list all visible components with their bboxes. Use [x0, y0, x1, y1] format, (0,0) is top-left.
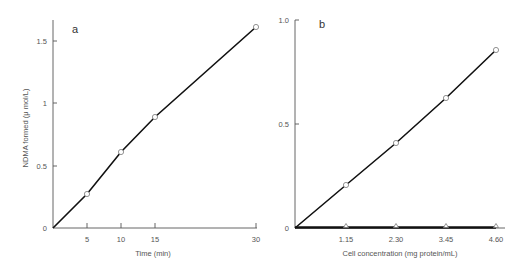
- data-point: [253, 24, 258, 29]
- panel-b-x-ticks: 1.15 2.30 3.45 4.60: [339, 235, 504, 244]
- panel-a-ytick-2: 1: [43, 99, 47, 108]
- panel-b-y-ticks: 0 0.5 1.0: [279, 16, 299, 233]
- panel-b-xtick-2: 3.45: [439, 235, 454, 244]
- data-point: [443, 95, 448, 100]
- panel-b-x-axis-label: Cell concentration (mg protein/mL): [342, 249, 458, 258]
- figure: a 0 0.5 1 1.5 5 10 15 30 Time (min) NDMA: [0, 0, 531, 275]
- panel-b-ytick-2: 1.0: [279, 16, 289, 25]
- panel-b-ytick-0: 0: [285, 224, 289, 233]
- panel-a-xtick-3: 30: [252, 235, 260, 244]
- panel-b-xtick-3: 4.60: [489, 235, 504, 244]
- data-point: [444, 224, 449, 228]
- panel-a-ytick-3: 1.5: [37, 37, 47, 46]
- data-point: [84, 191, 89, 196]
- panel-b-ytick-1: 0.5: [279, 120, 289, 129]
- data-point: [494, 224, 499, 228]
- data-point: [343, 182, 348, 187]
- panel-a-series-line: [53, 27, 256, 228]
- data-point: [344, 224, 349, 228]
- panel-a-ytick-0: 0: [43, 224, 47, 233]
- panel-a-x-axis-label: Time (min): [135, 249, 171, 258]
- panel-b: b 0 0.5 1.0 1.15 2.30 3.45 4.60 Cell con…: [279, 16, 505, 258]
- data-point: [493, 47, 498, 52]
- panel-a: a 0 0.5 1 1.5 5 10 15 30 Time (min) NDMA: [21, 20, 260, 258]
- panel-b-series-circles-line: [295, 50, 496, 228]
- chart-svg: a 0 0.5 1 1.5 5 10 15 30 Time (min) NDMA: [0, 0, 531, 275]
- panel-a-y-ticks: 0 0.5 1 1.5: [37, 37, 57, 233]
- data-point: [152, 114, 157, 119]
- panel-a-x-ticks: 5 10 15 30: [85, 223, 260, 244]
- panel-b-label: b: [319, 18, 325, 30]
- panel-a-xtick-2: 15: [151, 235, 159, 244]
- panel-b-xtick-1: 2.30: [389, 235, 404, 244]
- panel-a-xtick-0: 5: [85, 235, 89, 244]
- panel-a-ytick-1: 0.5: [37, 162, 47, 171]
- panel-a-markers: [84, 24, 258, 196]
- data-point: [394, 224, 399, 228]
- data-point: [393, 140, 398, 145]
- panel-b-circle-markers: [343, 47, 498, 187]
- panel-a-y-axis-label: NDMA formed (μ mol/L): [21, 88, 30, 167]
- panel-a-label: a: [72, 23, 79, 35]
- data-point: [118, 149, 123, 154]
- panel-b-xtick-0: 1.15: [339, 235, 354, 244]
- panel-a-xtick-1: 10: [117, 235, 125, 244]
